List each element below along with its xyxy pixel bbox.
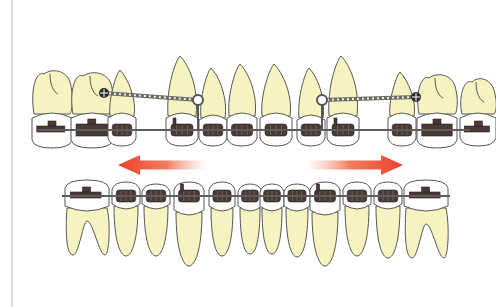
upper-tooth-molar (417, 75, 457, 148)
upper-tooth-lateral (297, 68, 325, 146)
lower-tooth-premolar (142, 184, 170, 256)
upper-tooth-molar (460, 79, 496, 146)
upper-tooth-molar (71, 73, 113, 148)
lower-tooth-molar (65, 180, 109, 255)
upper-tooth-lateral (199, 68, 227, 146)
lower-tooth-premolar (112, 182, 140, 256)
diagram-canvas (0, 0, 496, 307)
orthodontic-diagram (0, 0, 496, 307)
upper-tooth-premolar (388, 72, 416, 146)
force-arrows (118, 155, 403, 175)
upper-arch (32, 56, 496, 148)
lower-tooth-lateral (284, 184, 310, 257)
upper-tooth-central (260, 64, 292, 146)
lower-tooth-premolar (343, 182, 371, 256)
lower-arch (62, 180, 450, 266)
lower-tooth-central (238, 184, 262, 254)
lower-tooth-central (260, 184, 284, 254)
arrow-right-icon (305, 155, 403, 175)
upper-tooth-molar (32, 71, 72, 148)
bracket-hook (317, 184, 320, 191)
upper-tooth-premolar (108, 70, 136, 146)
bracket-hook (334, 118, 337, 125)
upper-tooth-central (227, 64, 257, 146)
hook-loop-icon (193, 95, 203, 105)
arrow-left-icon (118, 155, 208, 175)
lower-tooth-premolar (374, 182, 402, 258)
lower-tooth-molar (404, 180, 448, 258)
bracket-hook (181, 184, 184, 191)
lower-tooth-lateral (209, 182, 235, 256)
bracket-hook (173, 118, 176, 125)
lower-tooth-canine (174, 182, 204, 266)
lower-tooth-canine (310, 182, 340, 266)
hook-loop-icon (317, 95, 327, 105)
